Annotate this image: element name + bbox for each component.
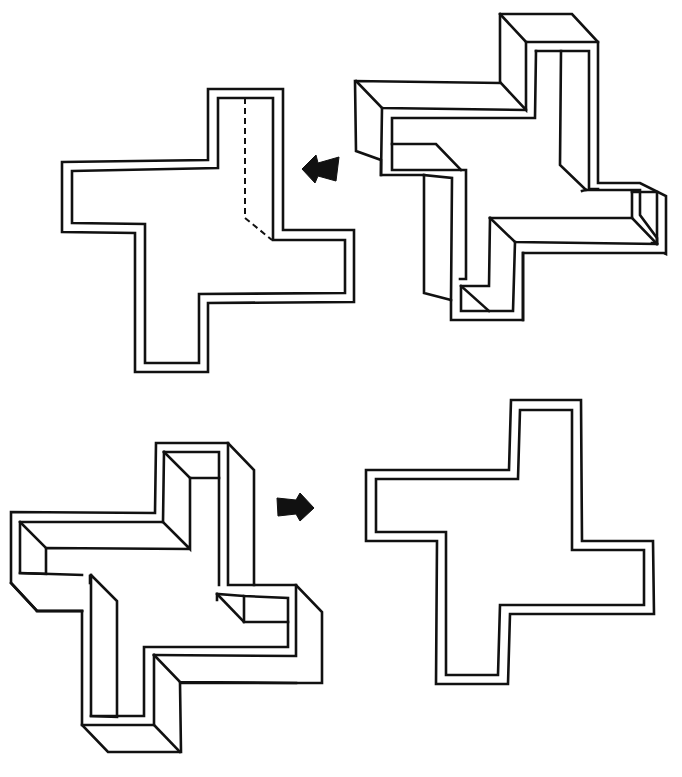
edge-line [632, 192, 657, 244]
edge-line [582, 190, 586, 191]
edge-line [424, 175, 452, 300]
edge-line [501, 42, 526, 110]
edge-line [632, 192, 657, 244]
edge-line [381, 108, 382, 175]
edge-line [164, 452, 219, 478]
edge-line [164, 452, 219, 585]
figure-canvas [0, 0, 682, 777]
edge-line [461, 286, 489, 311]
shape-bottom-right-flat [366, 400, 654, 684]
shape-top-right-3d [355, 14, 666, 320]
puzzle-figure [0, 0, 682, 777]
edge-line [11, 583, 82, 611]
edge-line [154, 655, 296, 683]
edge-line [91, 575, 117, 717]
edge-line [560, 51, 657, 243]
edge-line [244, 596, 288, 622]
edge-line [20, 522, 46, 548]
outer-outline [62, 89, 354, 372]
edge-line [217, 594, 244, 622]
outer-outline [366, 400, 654, 684]
edge-line [20, 573, 82, 575]
dashed-fold-line [245, 98, 272, 240]
arrow-left-icon [302, 155, 339, 183]
arrow-right-icon [277, 493, 314, 521]
edge-line [490, 218, 657, 244]
edge-line [356, 81, 526, 110]
shape-top-left-flat [62, 89, 354, 372]
edge-line [163, 452, 164, 522]
edge-line [461, 218, 515, 311]
edge-line [154, 725, 180, 752]
edge-line [536, 51, 598, 189]
shape-bottom-left-3d [11, 443, 322, 752]
edge-line [392, 144, 461, 170]
edge-line [355, 14, 666, 320]
